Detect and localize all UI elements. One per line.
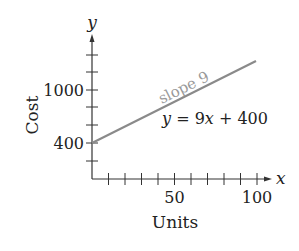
x-axis-arrow-icon [264,177,272,182]
eq-x: x [205,109,214,128]
ytick-1000: 1000 [43,81,84,100]
x-axis-title: Units [152,212,198,232]
chart: 1000 400 50 100 y x Units Cost slope 9 y… [0,0,299,251]
x-var-label: x [276,168,286,188]
eq-tail: + 400 [214,109,268,128]
y-var-label: y [86,12,97,32]
y-axis-arrow-icon [90,34,95,42]
xtick-50: 50 [164,188,184,207]
ytick-400: 400 [53,134,84,153]
slope-annotation: slope 9 [155,67,212,107]
y-axis-title: Cost [22,95,42,134]
eq-mid: = 9 [171,109,205,128]
equation-annotation: y = 9x + 400 [161,109,268,128]
xtick-100: 100 [242,188,273,207]
